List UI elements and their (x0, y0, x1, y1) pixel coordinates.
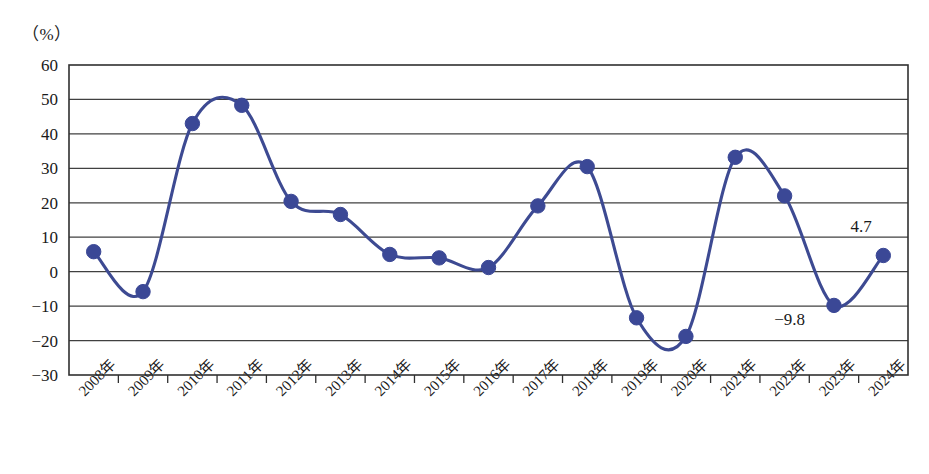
data-point-marker (531, 199, 545, 213)
y-axis-tick-label: 0 (50, 263, 59, 282)
x-axis-tick-label: 2017年 (520, 356, 563, 399)
data-point-markers (86, 98, 890, 344)
data-series-line (94, 97, 884, 350)
data-point-marker (629, 311, 643, 325)
x-axis-tick-labels: 2008年2009年2010年2011年2012年2013年2014年2015年… (75, 356, 908, 399)
data-point-marker (86, 244, 100, 258)
data-point-marker (235, 98, 249, 112)
x-axis-tick-label: 2015年 (421, 356, 464, 399)
x-axis-tick-label: 2024年 (865, 356, 908, 399)
data-point-marker (728, 150, 742, 164)
data-point-labels: 4.7−9.8 (774, 217, 872, 329)
series-line-path (94, 97, 884, 350)
y-axis-tick-labels: 6050403020100−10−20−30 (31, 56, 58, 385)
line-chart-plot: 6050403020100−10−20−30 2008年2009年2010年20… (0, 0, 929, 474)
x-axis-tick-label: 2010年 (174, 356, 217, 399)
y-axis-tick-label: 50 (41, 90, 58, 109)
data-point-value-label: 4.7 (850, 217, 872, 236)
x-axis-tick-label: 2014年 (372, 356, 415, 399)
data-point-marker (876, 248, 890, 262)
x-axis-tick-label: 2023年 (816, 356, 859, 399)
x-axis-tick-label: 2009年 (125, 356, 168, 399)
x-axis-tick-label: 2016年 (470, 356, 513, 399)
data-point-marker (333, 207, 347, 221)
y-axis-tick-label: −10 (31, 297, 58, 316)
y-axis-tick-label: 60 (41, 56, 58, 75)
x-axis-tick-label: 2012年 (273, 356, 316, 399)
x-axis-tick-label: 2013年 (322, 356, 365, 399)
y-axis-tick-label: 10 (41, 228, 58, 247)
data-point-marker (827, 298, 841, 312)
y-axis-tick-label: 40 (41, 125, 58, 144)
data-point-marker (136, 284, 150, 298)
data-point-value-label: −9.8 (774, 310, 805, 329)
x-axis-tick-label: 2011年 (224, 356, 267, 399)
x-axis-tick-label: 2018年 (569, 356, 612, 399)
data-point-marker (679, 329, 693, 343)
data-point-marker (185, 116, 199, 130)
chart-figure: （%） 6050403020100−10−20−30 2008年2009年201… (0, 0, 929, 474)
x-axis-tick-label: 2019年 (618, 356, 661, 399)
gridlines-group (69, 99, 908, 340)
y-axis-tick-label: −30 (31, 366, 58, 385)
data-point-marker (432, 251, 446, 265)
y-axis-tick-label: 30 (41, 159, 58, 178)
data-point-marker (284, 194, 298, 208)
data-point-marker (383, 247, 397, 261)
y-axis-tick-label: −20 (31, 332, 58, 351)
data-point-marker (580, 159, 594, 173)
x-axis-tick-label: 2020年 (668, 356, 711, 399)
data-point-marker (777, 189, 791, 203)
x-axis-tick-label: 2022年 (766, 356, 809, 399)
data-point-marker (481, 260, 495, 274)
y-axis-tick-label: 20 (41, 194, 58, 213)
x-axis-tick-label: 2008年 (75, 356, 118, 399)
x-axis-tick-label: 2021年 (717, 356, 760, 399)
